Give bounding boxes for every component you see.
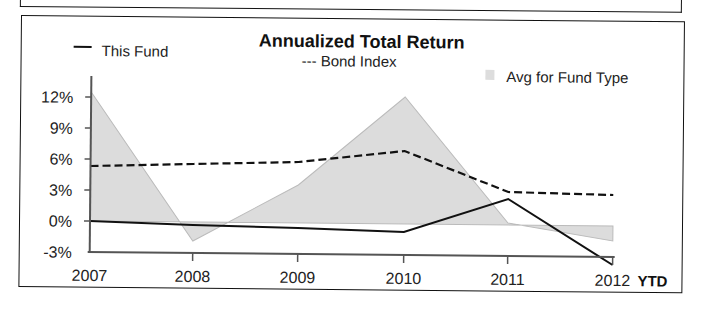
x-tick-2009: 2009 bbox=[280, 269, 316, 286]
x-tick-2008: 2008 bbox=[175, 268, 211, 285]
y-tick-3: 3% bbox=[49, 182, 72, 199]
x-axis bbox=[88, 252, 615, 257]
y-tick-neg3: -3% bbox=[43, 244, 72, 261]
ytd-label: YTD bbox=[637, 272, 667, 289]
avg-area bbox=[90, 92, 614, 245]
y-tick-6: 6% bbox=[49, 151, 72, 168]
y-tick-0: 0% bbox=[49, 213, 72, 230]
chart-svg: Annualized Total Return This Fund --- Bo… bbox=[0, 0, 705, 324]
y-axis bbox=[90, 76, 92, 252]
x-tick-2011: 2011 bbox=[490, 271, 525, 288]
y-tick-9: 9% bbox=[50, 120, 73, 137]
y-tick-12: 12% bbox=[41, 89, 73, 106]
legend-bond: --- Bond Index bbox=[301, 52, 397, 70]
chart-title: Annualized Total Return bbox=[259, 31, 465, 53]
avg-legend-swatch bbox=[485, 70, 494, 80]
x-tick-2012: 2012 bbox=[595, 272, 631, 289]
legend-fund: This Fund bbox=[102, 42, 169, 60]
x-tick-2007: 2007 bbox=[72, 267, 108, 284]
x-tick-2010: 2010 bbox=[386, 270, 422, 287]
legend-avg: Avg for Fund Type bbox=[506, 68, 628, 86]
